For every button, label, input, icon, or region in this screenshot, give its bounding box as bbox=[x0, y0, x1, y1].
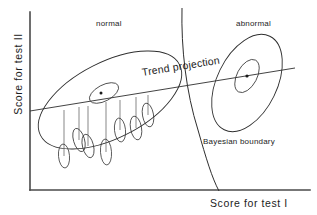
abnormal-centroid-dot bbox=[245, 74, 248, 77]
normal-centroid-ellipse bbox=[86, 78, 122, 107]
normal-cluster-ellipse bbox=[23, 31, 197, 170]
bayesian-boundary-curve bbox=[182, 8, 219, 191]
scatter-diagram-figure: normal abnormal Trend projection Bayesia… bbox=[0, 0, 317, 215]
y-axis-label: Score for test II bbox=[12, 19, 24, 129]
diagram-canvas bbox=[0, 0, 317, 215]
normal-centroid-dot bbox=[100, 92, 103, 95]
normal-cluster-label: normal bbox=[96, 19, 122, 28]
abnormal-cluster-ellipse bbox=[197, 23, 297, 143]
projection-lines-group bbox=[64, 95, 148, 156]
sample-ellipses-group bbox=[57, 102, 155, 168]
abnormal-cluster-label: abnormal bbox=[236, 19, 271, 28]
x-axis-label: Score for test I bbox=[210, 197, 288, 209]
bayesian-boundary-label: Bayesian boundary bbox=[203, 137, 275, 146]
